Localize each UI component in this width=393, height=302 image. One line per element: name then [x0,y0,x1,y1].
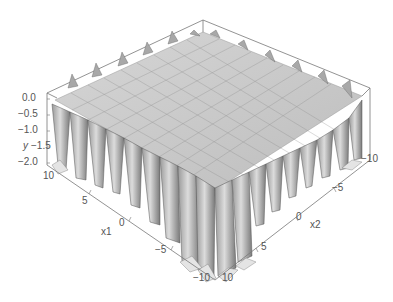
x2-tick-neg10: −10 [361,153,378,164]
x2-tick-0: 0 [296,211,302,222]
x2-axis-label: x2 [310,219,321,230]
z-tick-4: −2.0 [18,156,38,167]
x2-tick-neg5: −5 [332,182,343,193]
z-axis-ticks [47,99,50,163]
x2-tick-10: 10 [222,272,233,283]
x1-tick-neg10: −10 [193,272,210,283]
z-tick-2: −1.0 [18,124,38,135]
z-tick-0: 0.0 [22,92,36,103]
x1-tick-5: 5 [82,195,88,206]
z-axis-label: y [23,140,28,151]
x1-tick-0: 0 [119,217,125,228]
z-tick-3: −1.5 [31,140,51,151]
z-tick-1: −0.5 [18,108,38,119]
x1-tick-10: 10 [43,170,54,181]
x2-tick-5: 5 [261,241,267,252]
x1-axis-label: x1 [101,226,112,237]
x1-tick-neg5: −5 [155,244,166,255]
surface-plot [0,0,393,302]
